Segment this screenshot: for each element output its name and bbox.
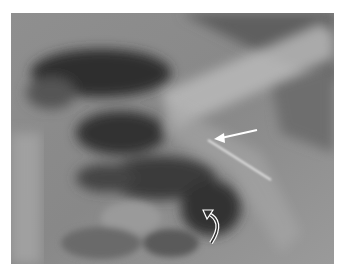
xray-image [11,13,334,264]
xray-canvas [11,13,334,264]
chest-wall [11,133,41,264]
